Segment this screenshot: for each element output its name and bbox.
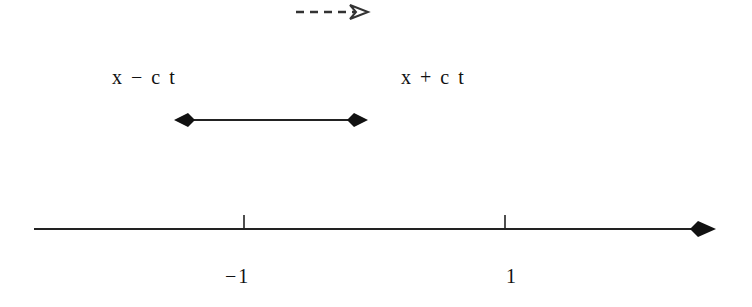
interval-double-arrow: [174, 113, 368, 127]
diagram-canvas: [0, 0, 752, 307]
axis-arrowhead-icon: [690, 221, 716, 237]
number-line-axis: [34, 215, 716, 237]
dashed-direction-arrow: [296, 5, 368, 19]
right-arrowhead-icon: [347, 113, 368, 127]
left-arrowhead-icon: [174, 113, 195, 127]
tick-label-one: 1: [506, 265, 518, 288]
right-endpoint-label: x + c t: [401, 66, 466, 89]
tick-label-minus-one: −1: [225, 265, 250, 288]
left-endpoint-label: x − c t: [112, 66, 177, 89]
